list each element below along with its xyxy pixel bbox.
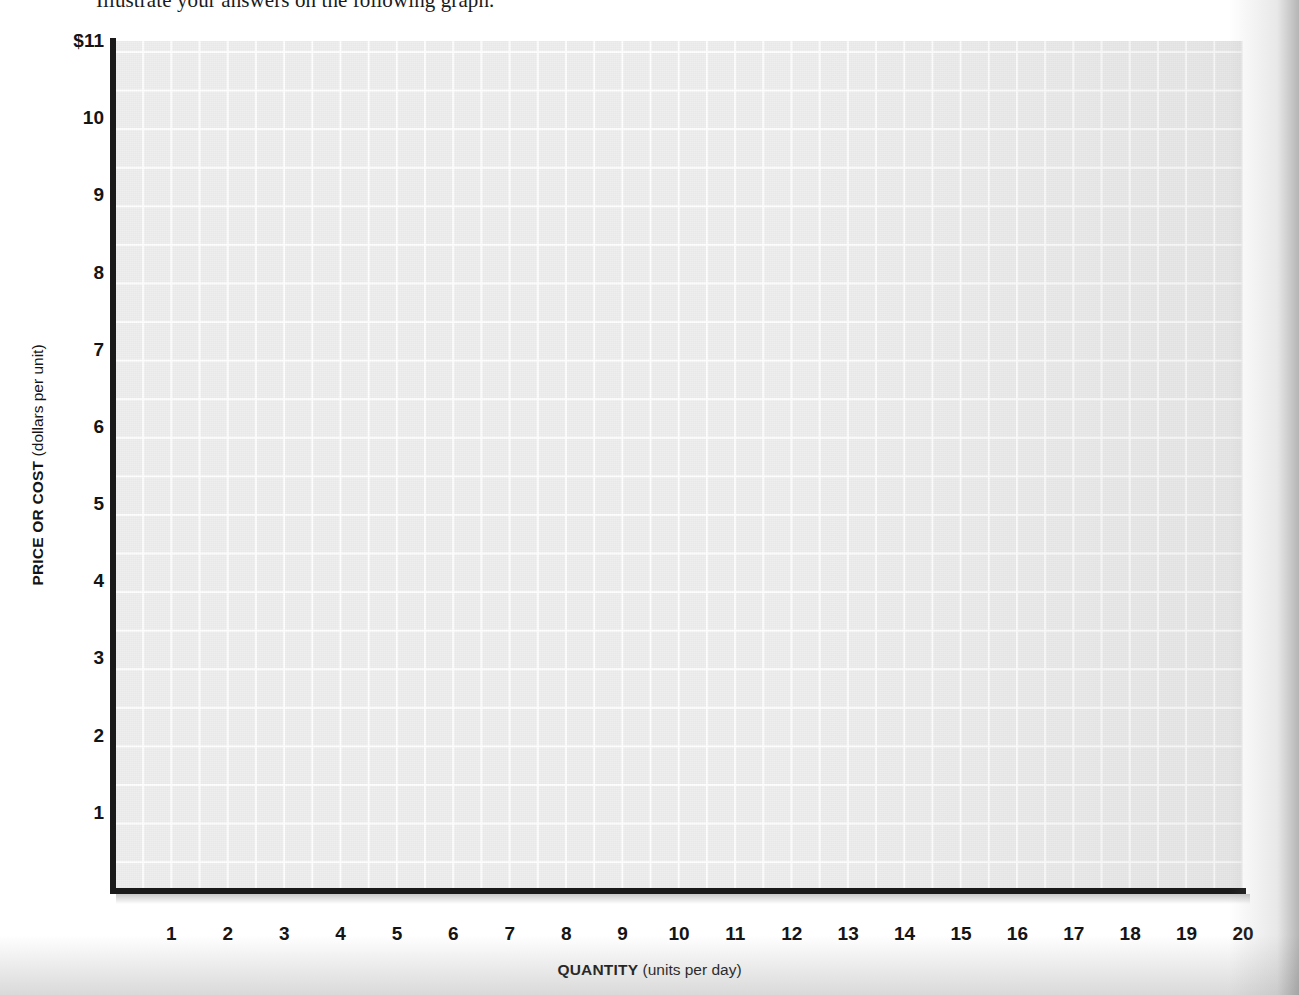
x-axis-title-main: QUANTITY — [557, 961, 638, 978]
x-tick-label: 1 — [143, 923, 199, 945]
x-axis-title-units: (units per day) — [643, 961, 742, 978]
y-tick-label: 6 — [44, 416, 104, 438]
x-tick-label: 8 — [538, 923, 594, 945]
x-tick-label: 19 — [1159, 923, 1215, 945]
plot-grid-area — [115, 41, 1243, 890]
x-tick-label: 18 — [1102, 923, 1158, 945]
y-tick-label: 8 — [44, 262, 104, 284]
x-tick-label: 17 — [1046, 923, 1102, 945]
y-axis-title-units: (dollars per unit) — [29, 344, 46, 456]
x-tick-label: 16 — [989, 923, 1045, 945]
x-tick-label: 13 — [820, 923, 876, 945]
x-axis-tick-labels: 1234567891011121314151617181920 — [0, 923, 1299, 949]
x-tick-label: 15 — [933, 923, 989, 945]
y-tick-label: 1 — [44, 802, 104, 824]
x-tick-label: 7 — [482, 923, 538, 945]
y-tick-label: 7 — [44, 339, 104, 361]
y-tick-label: $11 — [44, 30, 104, 52]
x-tick-label: 6 — [425, 923, 481, 945]
x-tick-label: 2 — [200, 923, 256, 945]
y-tick-label: 5 — [44, 493, 104, 515]
x-axis-title: QUANTITY (units per day) — [0, 961, 1299, 979]
y-axis-title: PRICE OR COST (dollars per unit) — [29, 265, 47, 665]
y-tick-label: 9 — [44, 184, 104, 206]
y-tick-label: 4 — [44, 570, 104, 592]
x-tick-label: 3 — [256, 923, 312, 945]
x-tick-label: 9 — [595, 923, 651, 945]
x-axis-drop-shadow — [116, 894, 1250, 904]
scanned-textbook-page: Illustrate your answers on the following… — [0, 0, 1299, 995]
plot-scan-shading — [115, 41, 1243, 890]
y-axis-title-main: PRICE OR COST — [29, 461, 46, 586]
y-axis-tick-labels: $1110987654321 — [38, 0, 104, 995]
y-tick-label: 3 — [44, 647, 104, 669]
y-tick-label: 10 — [44, 107, 104, 129]
x-tick-label: 11 — [707, 923, 763, 945]
x-tick-label: 10 — [651, 923, 707, 945]
plot-paper-texture — [115, 41, 1243, 890]
x-tick-label: 14 — [877, 923, 933, 945]
x-tick-label: 12 — [764, 923, 820, 945]
blank-graph-figure: $1110987654321 1234567891011121314151617… — [0, 0, 1299, 995]
x-tick-label: 5 — [369, 923, 425, 945]
y-tick-label: 2 — [44, 725, 104, 747]
x-tick-label: 4 — [313, 923, 369, 945]
y-axis-line — [110, 38, 116, 894]
x-tick-label: 20 — [1215, 923, 1271, 945]
